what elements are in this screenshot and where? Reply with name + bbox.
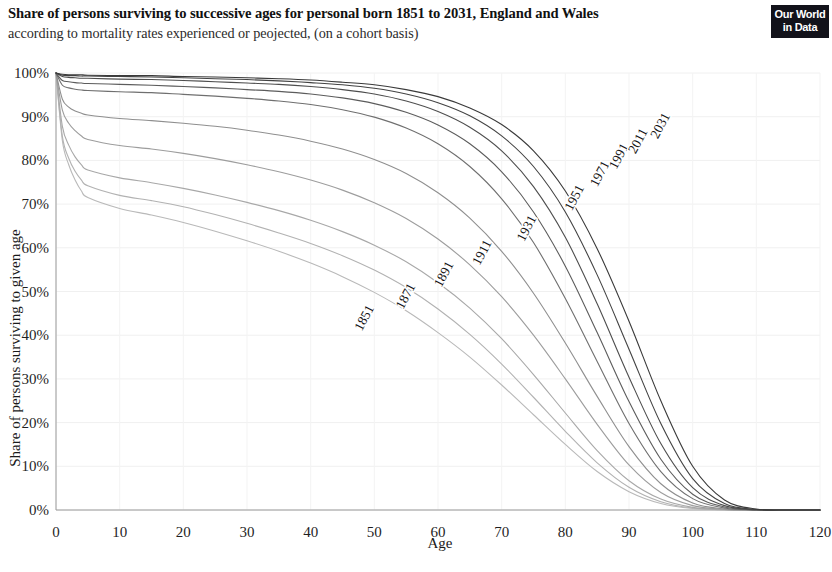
x-tick-label: 80 [558, 524, 573, 540]
grid-lines [56, 73, 820, 510]
our-world-in-data-logo[interactable]: Our World in Data [771, 5, 829, 38]
chart-header: Share of persons surviving to successive… [8, 4, 768, 43]
series-label-2031: 20312031 [647, 110, 673, 141]
series-label-text: 1911 [469, 237, 495, 267]
chart-plot-area: 0%10%20%30%40%50%60%70%80%90%100% 010203… [0, 48, 832, 572]
logo-line-2: in Data [771, 21, 829, 34]
x-tick-label: 110 [745, 524, 767, 540]
chart-page: Share of persons surviving to successive… [0, 0, 832, 572]
series-label-1931: 19311931 [513, 213, 539, 244]
y-tick-label: 60% [22, 240, 50, 256]
page-title: Share of persons surviving to successive… [8, 4, 768, 23]
series-label-text: 1891 [431, 259, 457, 290]
x-tick-label: 30 [240, 524, 255, 540]
series-label-1891: 18911891 [431, 259, 457, 290]
x-tick-label: 120 [809, 524, 832, 540]
x-tick-label: 0 [52, 524, 60, 540]
series-label-text: 1931 [513, 213, 539, 244]
y-axis-label: Share of persons surviving to given age [7, 229, 23, 467]
series-label-text: 2031 [647, 110, 673, 141]
series-label-1911: 19111911 [469, 237, 495, 267]
series-label-text: 1871 [392, 281, 418, 312]
y-tick-label: 90% [22, 109, 50, 125]
logo-line-1: Our World [775, 8, 826, 20]
x-tick-label: 90 [622, 524, 637, 540]
page-subtitle: according to mortality rates experienced… [8, 24, 768, 43]
survival-curves-chart: 0%10%20%30%40%50%60%70%80%90%100% 010203… [0, 48, 832, 572]
x-tick-label: 10 [112, 524, 127, 540]
series-inline-labels: 1851185118711871189118911911191119311931… [351, 110, 673, 333]
x-tick-label: 50 [367, 524, 382, 540]
x-tick-label: 20 [176, 524, 191, 540]
series-label-1851: 18511851 [351, 302, 377, 333]
x-tick-label: 40 [303, 524, 318, 540]
series-label-1871: 18711871 [392, 281, 418, 312]
y-tick-label: 10% [22, 458, 50, 474]
x-tick-label: 70 [494, 524, 509, 540]
series-label-text: 1851 [351, 302, 377, 333]
y-tick-label: 20% [22, 415, 50, 431]
x-tick-label: 100 [681, 524, 704, 540]
y-tick-label: 40% [22, 327, 50, 343]
y-tick-label: 0% [29, 502, 49, 518]
y-tick-label: 30% [22, 371, 50, 387]
y-tick-label: 80% [22, 152, 50, 168]
y-tick-label: 50% [22, 284, 50, 300]
y-tick-label: 100% [14, 65, 49, 81]
y-tick-label: 70% [22, 196, 50, 212]
x-axis-label: Age [428, 535, 453, 551]
